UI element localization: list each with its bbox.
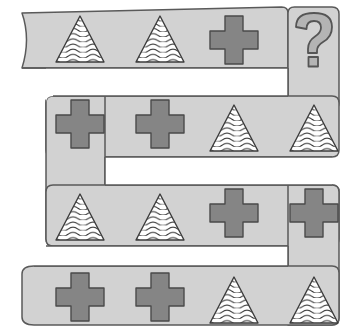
- question-mark-icon: [286, 8, 342, 68]
- shape-cell-r3c3[interactable]: [206, 184, 262, 240]
- shape-cell-r1c1[interactable]: [52, 11, 108, 67]
- shape-cell-r3c4[interactable]: [286, 184, 342, 240]
- shape-cell-r2c4[interactable]: [286, 100, 342, 156]
- filled-plus-cross-icon: [52, 95, 108, 151]
- wavy-filled-triangle-icon: [206, 272, 262, 328]
- ribbon-notch-middle: [105, 157, 332, 185]
- filled-plus-cross-icon: [52, 268, 108, 324]
- shape-cell-r1c2[interactable]: [132, 11, 188, 67]
- shape-cell-r4c4[interactable]: [286, 272, 342, 328]
- shape-cell-r1c3[interactable]: [206, 11, 262, 67]
- wavy-filled-triangle-icon: [286, 272, 342, 328]
- wavy-filled-triangle-icon: [52, 189, 108, 245]
- filled-plus-cross-icon: [132, 268, 188, 324]
- shape-cell-r2c3[interactable]: [206, 100, 262, 156]
- shape-cell-r4c2[interactable]: [132, 268, 188, 324]
- shape-cell-r4c1[interactable]: [52, 268, 108, 324]
- shape-cell-r2c2[interactable]: [132, 95, 188, 151]
- shape-cell-r2c1[interactable]: [52, 95, 108, 151]
- wavy-filled-triangle-icon: [132, 189, 188, 245]
- shape-cell-r3c2[interactable]: [132, 189, 188, 245]
- wavy-filled-triangle-icon: [52, 11, 108, 67]
- filled-plus-cross-icon: [206, 11, 262, 67]
- filled-plus-cross-icon: [286, 184, 342, 240]
- ribbon-notch-bottom: [34, 246, 288, 266]
- shape-cell-r3c1[interactable]: [52, 189, 108, 245]
- wavy-filled-triangle-icon: [132, 11, 188, 67]
- filled-plus-cross-icon: [132, 95, 188, 151]
- shape-cell-r1c4-question[interactable]: [286, 8, 342, 68]
- puzzle-canvas: [0, 0, 357, 335]
- wavy-filled-triangle-icon: [286, 100, 342, 156]
- filled-plus-cross-icon: [206, 184, 262, 240]
- shape-cell-r4c3[interactable]: [206, 272, 262, 328]
- wavy-filled-triangle-icon: [206, 100, 262, 156]
